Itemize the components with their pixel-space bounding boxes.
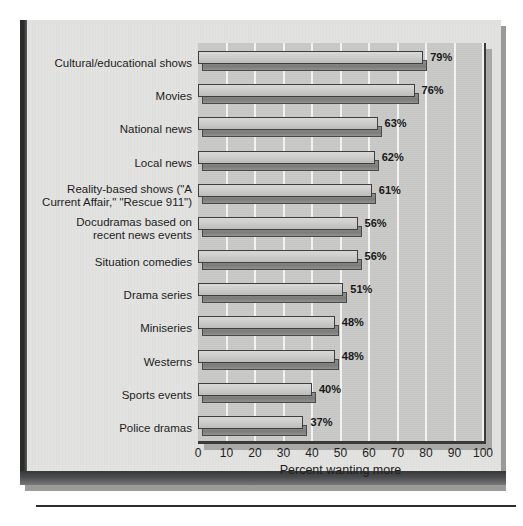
bar[interactable] bbox=[198, 151, 375, 164]
category-label: Movies bbox=[14, 90, 192, 103]
bar-row: 62% bbox=[198, 151, 483, 175]
bar-row: 37% bbox=[198, 416, 483, 440]
x-tick-label: 50 bbox=[334, 446, 347, 460]
bar-row: 40% bbox=[198, 383, 483, 407]
category-label: Situation comedies bbox=[14, 256, 192, 269]
category-label: Docudramas based on recent news events bbox=[14, 216, 192, 242]
bar-row: 51% bbox=[198, 283, 483, 307]
bar-value-label: 48% bbox=[342, 349, 364, 363]
bar-value-label: 76% bbox=[422, 83, 444, 97]
bar-row: 48% bbox=[198, 316, 483, 340]
bar[interactable] bbox=[198, 51, 423, 64]
bar[interactable] bbox=[198, 350, 335, 363]
bar-value-label: 48% bbox=[342, 315, 364, 329]
chart-screenshot: 79%76%63%62%61%56%56%51%48%48%40%37% Cul… bbox=[0, 0, 523, 526]
x-tick-label: 70 bbox=[391, 446, 404, 460]
bar-row: 56% bbox=[198, 217, 483, 241]
bar-value-label: 51% bbox=[350, 282, 372, 296]
x-tick-label: 90 bbox=[448, 446, 461, 460]
bar-value-label: 37% bbox=[310, 415, 332, 429]
x-axis-title: Percent wanting more bbox=[198, 463, 483, 477]
bar[interactable] bbox=[198, 416, 303, 429]
bar[interactable] bbox=[198, 250, 358, 263]
bar-value-label: 61% bbox=[379, 183, 401, 197]
x-tick-label: 30 bbox=[277, 446, 290, 460]
bar-row: 79% bbox=[198, 51, 483, 75]
category-label: Miniseries bbox=[14, 322, 192, 335]
x-axis-tick-labels: 0102030405060708090100 bbox=[198, 446, 483, 462]
bar[interactable] bbox=[198, 383, 312, 396]
x-tick-label: 10 bbox=[220, 446, 233, 460]
category-label: Drama series bbox=[14, 289, 192, 302]
bar-row: 56% bbox=[198, 250, 483, 274]
bar[interactable] bbox=[198, 84, 415, 97]
bar-value-label: 62% bbox=[382, 150, 404, 164]
category-label: Cultural/educational shows bbox=[14, 57, 192, 70]
x-tick-label: 0 bbox=[195, 446, 202, 460]
x-tick-label: 100 bbox=[473, 446, 493, 460]
page-divider-rule bbox=[36, 505, 516, 507]
category-label: Reality-based shows ("A Current Affair,"… bbox=[14, 183, 192, 209]
bar-row: 48% bbox=[198, 350, 483, 374]
x-tick-label: 60 bbox=[362, 446, 375, 460]
bar-value-label: 56% bbox=[365, 216, 387, 230]
bar-value-label: 40% bbox=[319, 382, 341, 396]
category-label: Westerns bbox=[14, 356, 192, 369]
category-label: Local news bbox=[14, 157, 192, 170]
bar[interactable] bbox=[198, 117, 378, 130]
category-label-list: Cultural/educational showsMoviesNational… bbox=[12, 43, 192, 441]
x-tick-label: 80 bbox=[419, 446, 432, 460]
bar[interactable] bbox=[198, 283, 343, 296]
x-tick-label: 40 bbox=[305, 446, 318, 460]
category-label: Sports events bbox=[14, 389, 192, 402]
category-label: National news bbox=[14, 123, 192, 136]
bar[interactable] bbox=[198, 184, 372, 197]
bar-row: 61% bbox=[198, 184, 483, 208]
bar-value-label: 79% bbox=[430, 50, 452, 64]
bar[interactable] bbox=[198, 316, 335, 329]
bar-row: 63% bbox=[198, 117, 483, 141]
plot-area: 79%76%63%62%61%56%56%51%48%48%40%37% bbox=[198, 43, 486, 444]
bar-value-label: 56% bbox=[365, 249, 387, 263]
bar[interactable] bbox=[198, 217, 358, 230]
bar-value-label: 63% bbox=[385, 116, 407, 130]
x-tick-label: 20 bbox=[248, 446, 261, 460]
bar-row: 76% bbox=[198, 84, 483, 108]
category-label: Police dramas bbox=[14, 422, 192, 435]
